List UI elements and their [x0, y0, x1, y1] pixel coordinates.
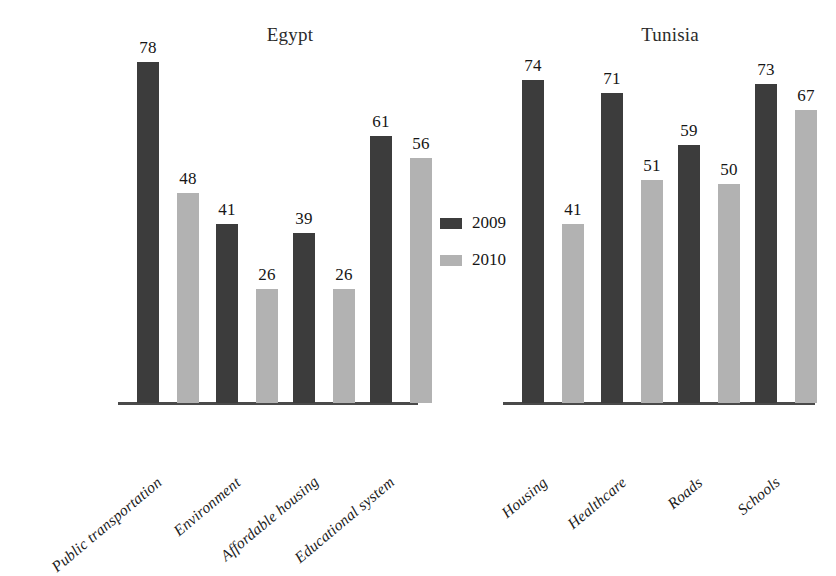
legend-swatch-2010-icon — [440, 255, 462, 266]
category-label-housing: Housing — [498, 473, 551, 521]
value-label-2010-affordable-housing: 26 — [335, 265, 353, 285]
bar-2010-educational-system — [410, 158, 432, 403]
bar-2010-affordable-housing — [333, 289, 355, 403]
value-label-2010-healthcare: 51 — [643, 156, 661, 176]
bar-2009-educational-system — [370, 136, 392, 403]
legend-item-2010[interactable]: 2010 — [440, 250, 506, 270]
legend-item-2009[interactable]: 2009 — [440, 213, 506, 233]
legend-swatch-2009-icon — [440, 218, 462, 229]
value-label-2010-schools: 67 — [797, 86, 815, 106]
value-label-2009-public-transportation: 78 — [139, 38, 157, 58]
value-label-2010-public-transportation: 48 — [179, 169, 197, 189]
legend-label-2010: 2010 — [472, 250, 506, 270]
value-label-2009-roads: 59 — [680, 121, 698, 141]
value-label-2010-environment: 26 — [258, 265, 276, 285]
category-label-roads: Roads — [664, 473, 706, 512]
bar-2009-schools — [755, 84, 777, 403]
bar-2009-healthcare — [601, 93, 623, 403]
bar-2010-schools — [795, 110, 817, 403]
category-label-public-transportation: Public transportation — [48, 473, 165, 576]
value-label-2010-educational-system: 56 — [412, 134, 430, 154]
value-label-2009-healthcare: 71 — [603, 69, 621, 89]
bar-2009-environment — [216, 224, 238, 403]
panel-title-tunisia: Tunisia — [641, 24, 699, 46]
value-label-2009-housing: 74 — [524, 56, 542, 76]
bar-2009-roads — [678, 145, 700, 403]
bar-2010-roads — [718, 184, 740, 403]
panel-title-egypt: Egypt — [267, 24, 313, 46]
bar-2009-housing — [522, 80, 544, 403]
value-label-2010-housing: 41 — [564, 200, 582, 220]
bar-2010-healthcare — [641, 180, 663, 403]
bar-2010-housing — [562, 224, 584, 403]
value-label-2009-affordable-housing: 39 — [295, 209, 313, 229]
legend-label-2009: 2009 — [472, 213, 506, 233]
value-label-2009-educational-system: 61 — [372, 112, 390, 132]
category-label-environment: Environment — [170, 473, 244, 539]
category-label-healthcare: Healthcare — [564, 473, 630, 533]
value-label-2010-roads: 50 — [720, 160, 738, 180]
bar-2009-public-transportation — [137, 62, 159, 403]
value-label-2009-schools: 73 — [757, 60, 775, 80]
category-label-schools: Schools — [734, 473, 784, 519]
bar-2010-environment — [256, 289, 278, 403]
bar-2010-public-transportation — [177, 193, 199, 403]
value-label-2009-environment: 41 — [218, 200, 236, 220]
bar-2009-affordable-housing — [293, 233, 315, 403]
